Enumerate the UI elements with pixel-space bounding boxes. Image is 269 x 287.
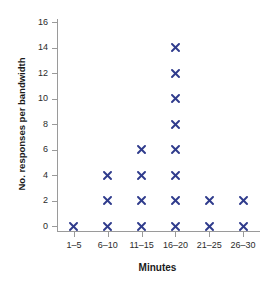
cross-marker [137,222,146,231]
y-axis-line [57,19,58,232]
y-tick-mark [52,175,57,176]
cross-marker [205,196,214,205]
cross-marker [171,171,180,180]
cross-marker [137,145,146,154]
cross-marker [103,171,112,180]
scatter-chart: No. responses per bandwidth 024681012141… [0,0,269,287]
y-tick-mark [52,73,57,74]
cross-marker [137,171,146,180]
cross-marker [103,222,112,231]
y-tick-mark [52,99,57,100]
x-tick-mark [108,232,109,237]
cross-marker [171,43,180,52]
cross-marker [69,222,78,231]
y-tick-label: 8 [26,120,48,129]
y-tick-label: 6 [26,145,48,154]
cross-marker [171,94,180,103]
x-tick-mark [142,232,143,237]
x-axis-title: Minutes [55,262,260,273]
x-tick-mark [209,232,210,237]
y-tick-mark [52,22,57,23]
cross-marker [239,222,248,231]
y-tick-mark [52,150,57,151]
cross-marker [205,222,214,231]
x-tick-mark [243,232,244,237]
y-tick-mark [52,124,57,125]
y-tick-label: 12 [26,69,48,78]
cross-marker [171,222,180,231]
y-tick-mark [52,201,57,202]
y-tick-label: 2 [26,196,48,205]
cross-marker [171,196,180,205]
cross-marker [171,145,180,154]
x-axis-line [57,231,260,232]
x-tick-mark [74,232,75,237]
y-tick-label: 4 [26,171,48,180]
cross-marker [171,120,180,129]
x-tick-label: 26–30 [221,241,265,250]
cross-marker [171,69,180,78]
cross-marker [137,196,146,205]
y-tick-label: 16 [26,18,48,27]
x-tick-mark [175,232,176,237]
y-tick-label: 10 [26,94,48,103]
y-tick-label: 0 [26,222,48,231]
y-tick-label: 14 [26,43,48,52]
y-tick-mark [52,226,57,227]
cross-marker [103,196,112,205]
cross-marker [239,196,248,205]
y-axis-title-text: No. responses per bandwidth [16,57,27,190]
y-tick-mark [52,48,57,49]
